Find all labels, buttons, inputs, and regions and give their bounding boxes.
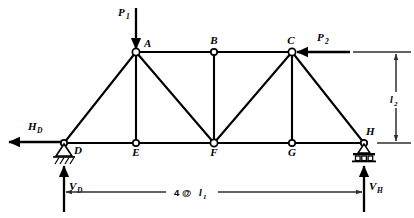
member-A-F [136,52,214,143]
truss-members [64,52,364,143]
pin-support-triangle [56,144,72,156]
span-dimension-subscript: 1 [203,193,207,201]
load-P2-subscript: 2 [324,37,329,46]
truss-diagram-canvas: A B C D E F G H [0,0,414,218]
joint-label-H: H [365,125,375,137]
joint-B [211,49,217,55]
pin-support-hatching [55,158,74,165]
roller-support-plate [353,153,375,155]
span-dimension: 4 @ l 1 [66,187,362,201]
roller-support-wheels [356,156,373,161]
joint-label-F: F [209,146,218,158]
joint-C [288,48,295,55]
reaction-HD-label: H [27,120,37,132]
truss-diagram: A B C D E F G H [0,0,414,218]
joint-label-D: D [73,144,82,156]
joint-A [132,48,139,55]
span-dimension-prefix: 4 @ [174,187,191,198]
member-D-A [64,52,136,143]
joint-label-A: A [143,37,151,49]
load-P2-label: P [317,31,324,43]
roller-support-triangle [358,144,370,153]
reaction-HD: H D [9,120,62,142]
roller-support-H [352,144,376,161]
reaction-VH-subscript: H [376,186,384,195]
reaction-VH: V H [364,166,384,212]
joint-label-B: B [209,34,217,46]
member-F-C [214,52,292,143]
reaction-VD-subscript: D [76,186,83,195]
load-P1-label: P [118,6,125,18]
height-dimension-subscript: 2 [393,100,398,108]
joint-label-C: C [287,34,295,46]
pin-support-D [53,144,75,164]
reaction-VD: V D [64,166,83,212]
height-dimension: l 2 [353,52,411,143]
load-P1-subscript: 1 [126,12,130,21]
joint-label-G: G [288,146,296,158]
load-P1: P 1 [118,6,136,49]
span-dimension-symbol: l [199,187,202,198]
joint-label-E: E [131,146,139,158]
load-P2: P 2 [297,31,350,52]
height-dimension-symbol: l [390,94,393,105]
reaction-HD-subscript: D [36,126,43,135]
member-C-H [292,52,364,143]
